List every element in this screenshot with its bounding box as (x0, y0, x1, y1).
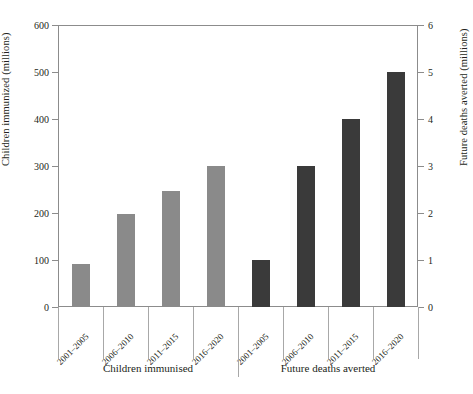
category-cell-separator (103, 307, 104, 359)
bar-chart-figure: Children immunized (millions) Future dea… (0, 0, 473, 394)
category-cell-separator (148, 307, 149, 359)
y-axis-left-tick-mark (52, 260, 58, 261)
plot-area (58, 25, 418, 307)
bar (117, 214, 135, 307)
y-axis-left-tick-label: 100 (34, 255, 49, 266)
bar (342, 119, 360, 307)
category-cell-separator (58, 307, 59, 359)
y-axis-right-tick-mark (418, 25, 424, 26)
category-cell-separator (373, 307, 374, 359)
category-cell-separator (283, 307, 284, 359)
y-axis-right-tick-label: 4 (428, 114, 433, 125)
y-axis-right-tick-mark (418, 166, 424, 167)
category-cell-separator (193, 307, 194, 359)
y-axis-right-tick-label: 2 (428, 208, 433, 219)
bar (72, 264, 90, 307)
y-axis-left-tick-label: 400 (34, 114, 49, 125)
y-axis-right-tick-mark (418, 213, 424, 214)
y-axis-left-tick-label: 300 (34, 161, 49, 172)
bar (387, 72, 405, 307)
bar (252, 260, 270, 307)
y-axis-right-tick-label: 0 (428, 302, 433, 313)
y-axis-left-title: Children immunized (millions) (0, 32, 11, 166)
group-label-children-immunised: Children immunised (58, 362, 238, 374)
y-axis-right-tick-label: 1 (428, 255, 433, 266)
y-axis-right-tick-mark (418, 72, 424, 73)
y-axis-right-tick-mark (418, 119, 424, 120)
y-axis-left-tick-label: 200 (34, 208, 49, 219)
y-axis-left-tick-mark (52, 25, 58, 26)
y-axis-left-tick-mark (52, 119, 58, 120)
y-axis-left-tick-label: 0 (44, 302, 49, 313)
y-axis-left-tick-mark (52, 213, 58, 214)
category-cell-separator (328, 307, 329, 359)
bar (162, 191, 180, 307)
y-axis-right-tick-label: 6 (428, 20, 433, 31)
y-axis-right-tick-mark (418, 260, 424, 261)
category-cell-separator (418, 307, 419, 359)
bar (207, 166, 225, 307)
bar (297, 166, 315, 307)
y-axis-right-tick-label: 3 (428, 161, 433, 172)
group-label-future-deaths-averted: Future deaths averted (238, 362, 418, 374)
y-axis-left-tick-label: 500 (34, 67, 49, 78)
y-axis-left-tick-label: 600 (34, 20, 49, 31)
y-axis-left-tick-mark (52, 166, 58, 167)
y-axis-right-title: Future deaths averted (millions) (458, 28, 469, 166)
y-axis-right-tick-label: 5 (428, 67, 433, 78)
y-axis-left-tick-mark (52, 72, 58, 73)
